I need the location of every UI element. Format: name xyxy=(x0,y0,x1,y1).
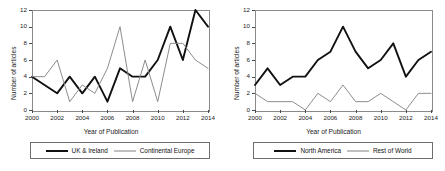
x-tick-label: 2000 xyxy=(243,115,267,121)
series-svg-right xyxy=(255,10,431,110)
y-tick-mark xyxy=(29,43,32,44)
x-tick-label: 2004 xyxy=(293,115,317,121)
legend-right: North America Rest of World xyxy=(253,142,433,159)
panel-americas: Number of articles Year of Publication 0… xyxy=(222,0,445,171)
series-line-1 xyxy=(255,85,431,110)
legend-swatch-north-america xyxy=(274,148,296,154)
legend-label-continental-europe: Continental Europe xyxy=(140,147,195,154)
y-tick-mark xyxy=(29,77,32,78)
y-tick-label: 8 xyxy=(233,40,250,46)
series-svg-left xyxy=(32,10,208,110)
x-tick-label: 2008 xyxy=(121,115,145,121)
y-tick-label: 4 xyxy=(233,73,250,79)
y-tick-mark xyxy=(29,60,32,61)
legend-item-0: North America xyxy=(274,147,341,154)
x-tick-mark xyxy=(133,110,134,113)
x-tick-mark xyxy=(431,110,432,113)
y-tick-label: 6 xyxy=(10,57,27,63)
x-tick-label: 2012 xyxy=(171,115,195,121)
x-tick-label: 2000 xyxy=(20,115,44,121)
x-tick-label: 2006 xyxy=(95,115,119,121)
panel-europe: Number of articles Year of Publication 0… xyxy=(0,0,222,171)
x-tick-mark xyxy=(406,110,407,113)
x-tick-label: 2002 xyxy=(268,115,292,121)
x-tick-label: 2006 xyxy=(318,115,342,121)
legend-swatch-continental-europe xyxy=(114,148,136,154)
x-tick-mark xyxy=(381,110,382,113)
x-tick-mark xyxy=(107,110,108,113)
series-line-0 xyxy=(255,27,431,85)
legend-swatch-uk-ireland xyxy=(46,148,68,154)
x-tick-label: 2012 xyxy=(394,115,418,121)
y-tick-label: 0 xyxy=(10,107,27,113)
x-tick-label: 2008 xyxy=(344,115,368,121)
x-tick-mark xyxy=(158,110,159,113)
x-tick-mark xyxy=(208,110,209,113)
y-tick-label: 2 xyxy=(233,90,250,96)
x-tick-mark xyxy=(305,110,306,113)
y-tick-mark xyxy=(252,43,255,44)
x-tick-mark xyxy=(255,110,256,113)
x-tick-mark xyxy=(82,110,83,113)
x-tick-label: 2004 xyxy=(70,115,94,121)
legend-label-rest-of-world: Rest of World xyxy=(373,147,412,154)
x-tick-mark xyxy=(32,110,33,113)
legend-item-0: UK & Ireland xyxy=(46,147,108,154)
y-tick-mark xyxy=(252,60,255,61)
x-tick-mark xyxy=(330,110,331,113)
x-tick-label: 2014 xyxy=(196,115,220,121)
y-tick-label: 10 xyxy=(233,23,250,29)
x-axis-title-right: Year of Publication xyxy=(222,128,445,135)
x-tick-label: 2010 xyxy=(369,115,393,121)
y-tick-label: 6 xyxy=(233,57,250,63)
x-tick-mark xyxy=(356,110,357,113)
legend-label-uk-ireland: UK & Ireland xyxy=(72,147,108,154)
y-tick-label: 4 xyxy=(10,73,27,79)
legend-left: UK & Ireland Continental Europe xyxy=(30,142,210,159)
x-tick-label: 2002 xyxy=(45,115,69,121)
legend-swatch-rest-of-world xyxy=(347,148,369,154)
series-line-0 xyxy=(32,10,208,102)
y-tick-label: 2 xyxy=(10,90,27,96)
y-tick-mark xyxy=(29,10,32,11)
y-tick-label: 0 xyxy=(233,107,250,113)
x-tick-mark xyxy=(183,110,184,113)
y-tick-mark xyxy=(252,10,255,11)
legend-item-1: Continental Europe xyxy=(114,147,195,154)
y-tick-mark xyxy=(252,77,255,78)
y-tick-mark xyxy=(252,27,255,28)
figure-two-panel-line-charts: Number of articles Year of Publication 0… xyxy=(0,0,445,171)
y-tick-label: 8 xyxy=(10,40,27,46)
y-tick-label: 10 xyxy=(10,23,27,29)
y-tick-mark xyxy=(29,27,32,28)
y-tick-label: 12 xyxy=(10,7,27,13)
y-tick-label: 12 xyxy=(233,7,250,13)
y-tick-mark xyxy=(29,93,32,94)
x-tick-label: 2014 xyxy=(419,115,443,121)
x-axis-title-left: Year of Publication xyxy=(0,128,222,135)
x-tick-label: 2010 xyxy=(146,115,170,121)
y-tick-mark xyxy=(252,93,255,94)
x-tick-mark xyxy=(57,110,58,113)
legend-item-1: Rest of World xyxy=(347,147,412,154)
x-tick-mark xyxy=(280,110,281,113)
legend-label-north-america: North America xyxy=(300,147,341,154)
